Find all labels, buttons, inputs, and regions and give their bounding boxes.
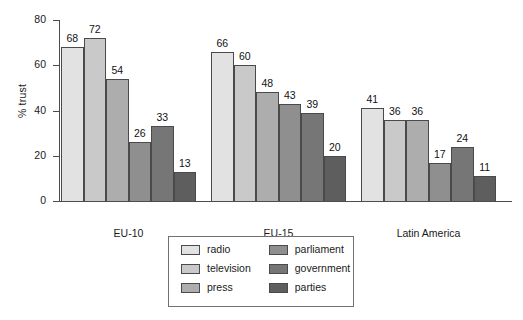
legend-swatch-parliament [269,245,288,255]
bar-radio-eu-15: 66 [211,52,234,201]
bar-parliament-eu-15: 43 [279,104,302,201]
bar-value-label: 11 [479,162,490,173]
legend-item-parties[interactable]: parties [269,282,350,293]
legend-swatch-television [181,264,200,274]
legend-item-press[interactable]: press [181,282,251,293]
legend-swatch-parties [269,283,288,293]
bar-value-label: 68 [66,33,78,44]
bar-government-eu-10: 33 [151,126,174,201]
bar-value-label: 48 [261,78,273,89]
legend-label: parties [295,282,327,293]
bar-value-label: 24 [456,133,468,144]
bar-television-eu-15: 60 [234,65,257,201]
bar-group-bars: 687254263313 [61,20,196,201]
bar-value-label: 54 [111,65,123,76]
legend-item-television[interactable]: television [181,263,251,274]
legend-label: press [207,282,233,293]
bar-press-eu-15: 48 [256,92,279,201]
y-tick-mark [53,201,59,202]
y-tick-mark [53,111,59,112]
bar-value-label: 41 [366,94,378,105]
legend-label: television [207,263,251,274]
y-tick-mark [53,156,59,157]
y-axis-label-container: % trust [14,0,30,201]
bar-value-label: 39 [306,99,318,110]
bar-group-bars: 666048433920 [211,20,346,201]
bar-value-label: 20 [329,142,341,153]
legend-column-right: parliamentgovernmentparties [269,244,350,306]
legend-swatch-radio [181,245,200,255]
legend-label: parliament [295,244,344,255]
legend-label: radio [207,244,230,255]
bar-press-latin-america: 36 [406,120,429,201]
x-axis-group-label: Latin America [361,227,496,239]
bar-parties-eu-10: 13 [174,172,197,201]
legend-column-left: radiotelevisionpress [181,244,251,306]
y-tick-label: 40 [8,105,46,116]
bar-group: 687254263313EU-10 [61,20,196,201]
bar-parties-eu-15: 20 [324,156,347,201]
legend-item-government[interactable]: government [269,263,350,274]
bar-value-label: 43 [284,90,296,101]
bar-group: 666048433920EU-15 [211,20,346,201]
bar-government-eu-15: 39 [301,113,324,201]
bar-value-label: 72 [89,24,101,35]
bar-value-label: 33 [156,112,168,123]
bar-value-label: 26 [134,128,146,139]
bar-parliament-eu-10: 26 [129,142,152,201]
x-axis-spine [59,201,512,202]
bar-value-label: 60 [239,51,251,62]
y-tick-mark [53,65,59,66]
y-tick-label: 0 [8,195,46,206]
bar-group-bars: 413636172411 [361,20,496,201]
bar-radio-eu-10: 68 [61,47,84,201]
bar-value-label: 36 [411,106,423,117]
bar-press-eu-10: 54 [106,79,129,201]
legend: radiotelevisionpress parliamentgovernmen… [168,236,354,307]
legend-swatch-government [269,264,288,274]
bar-group: 413636172411Latin America [361,20,496,201]
bar-value-label: 66 [216,38,228,49]
bar-government-latin-america: 24 [451,147,474,201]
plot-area: 687254263313EU-10666048433920EU-15413636… [60,20,512,201]
bar-value-label: 17 [434,149,446,160]
legend-item-parliament[interactable]: parliament [269,244,350,255]
legend-item-radio[interactable]: radio [181,244,251,255]
bar-television-latin-america: 36 [384,120,407,201]
bar-television-eu-10: 72 [84,38,107,201]
bar-chart-figure: % trust 020406080 687254263313EU-1066604… [0,0,523,320]
y-tick-label: 80 [8,14,46,25]
bar-parties-latin-america: 11 [474,176,497,201]
legend-swatch-press [181,283,200,293]
y-tick-label: 60 [8,59,46,70]
y-tick-mark [53,20,59,21]
y-tick-label: 20 [8,150,46,161]
bar-radio-latin-america: 41 [361,108,384,201]
legend-label: government [295,263,350,274]
bar-value-label: 36 [389,106,401,117]
bar-parliament-latin-america: 17 [429,163,452,201]
bar-value-label: 13 [179,158,191,169]
